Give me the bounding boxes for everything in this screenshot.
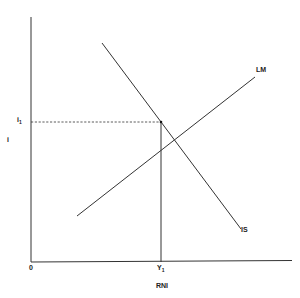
is-label: IS <box>241 226 248 233</box>
x-axis-label: RNI <box>156 282 168 289</box>
i1-label: i1 <box>17 116 22 125</box>
lm-curve <box>77 77 255 216</box>
origin-label: 0 <box>29 264 33 271</box>
is-lm-diagram: LM IS i1 i 0 Y1 RNI <box>0 0 300 298</box>
y-axis-label: i <box>7 136 9 143</box>
y1-label: Y1 <box>157 264 165 273</box>
is-curve <box>102 43 241 229</box>
equilibrium-point <box>160 121 163 124</box>
lm-label: LM <box>256 66 266 73</box>
